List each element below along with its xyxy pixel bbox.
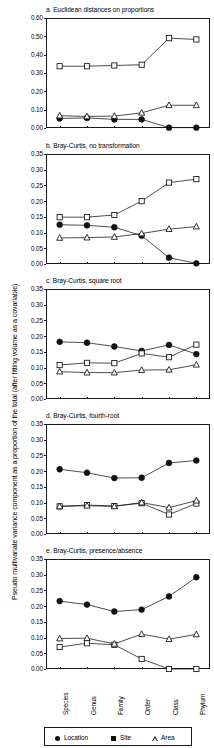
series-location [60,342,197,354]
data-point-open-triangle-marker [193,361,199,367]
legend-filled-square-icon [111,736,116,741]
series-line [60,345,197,365]
y-axis-label-container: Pseudo multivariate variance component a… [0,0,16,748]
data-point-open-square-marker [194,666,199,671]
legend-open-triangle-icon [152,736,158,741]
series-line [60,105,197,116]
data-point-open-triangle-marker [139,367,145,373]
data-point-open-square-marker [166,355,171,360]
x-axis-label-phylum: Phylum [199,694,206,715]
data-point-filled-circle-marker [84,470,90,476]
chart-panel-d: d. Bray-Curtis, fourth-root0.000.050.100… [16,412,214,540]
legend-open-triangle-inner [153,738,157,741]
data-point-open-square-marker [84,641,89,646]
legend-label: Location [64,734,88,741]
series-line [60,501,197,508]
data-point-filled-circle-marker [193,458,199,464]
chart-panel-e: e. Bray-Curtis, presence/absence0.000.05… [16,547,214,675]
data-point-open-square-marker [139,62,144,67]
series-line [60,118,197,128]
series-layer-c [16,277,214,405]
series-line [60,503,197,514]
x-axis-tick-labels: SpeciesGenusFamilyOrderClassPhylum [16,673,214,721]
chart-legend: LocationSiteArea [44,727,192,746]
series-location [60,225,197,264]
legend-label: Area [161,734,175,741]
series-location [60,118,197,128]
data-point-open-square-marker [166,512,171,517]
data-point-open-triangle-marker [84,635,90,641]
series-area [60,227,197,238]
series-layer-b [16,142,214,270]
series-location [60,460,197,478]
series-line [60,365,197,373]
series-layer-e [16,547,214,675]
data-point-open-triangle-marker [57,368,63,374]
legend-label: Site [120,734,131,741]
data-point-open-triangle-marker [166,102,172,108]
data-point-filled-circle-marker [139,475,145,481]
data-point-open-square-marker [194,177,199,182]
x-axis-label-order: Order [144,699,151,715]
data-point-open-square-marker [194,37,199,42]
series-line [60,225,197,264]
series-location [60,577,197,611]
series-line [60,577,197,611]
series-layer-d [16,412,214,540]
data-point-open-square-marker [139,351,144,356]
data-point-filled-circle-marker [139,116,145,122]
x-axis-label-family: Family [117,696,124,715]
data-point-filled-circle-marker [57,339,63,345]
data-point-open-square-marker [166,180,171,185]
series-line [60,634,197,644]
chart-panel-b: b. Bray-Curtis, no transformation0.000.0… [16,142,214,270]
data-point-open-square-marker [84,360,89,365]
data-point-filled-circle-marker [111,344,117,350]
data-point-open-square-marker [112,361,117,366]
data-point-filled-circle-marker [111,609,117,615]
series-site [60,38,197,66]
data-point-open-triangle-marker [193,223,199,229]
data-point-open-triangle-marker [57,635,63,641]
data-point-filled-circle-marker [193,260,199,266]
series-site [60,345,197,365]
data-point-open-square-marker [57,64,62,69]
data-point-open-triangle-marker [57,112,63,118]
series-area [60,634,197,644]
x-axis-label-genus: Genus [90,696,97,715]
data-point-open-square-marker [57,362,62,367]
data-point-filled-circle-marker [166,594,172,600]
data-point-open-triangle-marker [193,497,199,503]
data-point-filled-circle-marker [193,125,199,131]
series-area [60,105,197,116]
data-point-filled-circle-marker [193,574,199,580]
series-line [60,179,197,217]
series-area [60,365,197,373]
x-axis-label-species: Species [62,693,69,715]
x-axis-label-class: Class [172,699,179,715]
data-point-open-square-marker [57,644,62,649]
data-point-open-square-marker [139,199,144,204]
data-point-open-square-marker [139,656,144,661]
data-point-filled-circle-marker [84,340,90,346]
series-line [60,38,197,66]
series-site [60,643,197,669]
data-point-filled-circle-marker [166,460,172,466]
chart-panel-c: c. Bray-Curtis, square root0.000.050.100… [16,277,214,405]
series-layer-a [16,6,214,134]
data-point-open-triangle-marker [193,631,199,637]
series-line [60,643,197,669]
series-site [60,503,197,514]
data-point-open-triangle-marker [84,234,90,240]
series-line [60,342,197,354]
data-point-open-square-marker [166,36,171,41]
data-point-open-square-marker [166,666,171,671]
series-line [60,227,197,238]
data-point-open-triangle-marker [84,369,90,375]
data-point-open-triangle-marker [139,631,145,637]
data-point-filled-circle-marker [57,466,63,472]
data-point-filled-circle-marker [166,342,172,348]
data-point-filled-circle-marker [193,351,199,357]
chart-panel-a: a. Euclidean distances on proportions0.0… [16,6,214,134]
legend-filled-circle-icon [55,736,60,741]
